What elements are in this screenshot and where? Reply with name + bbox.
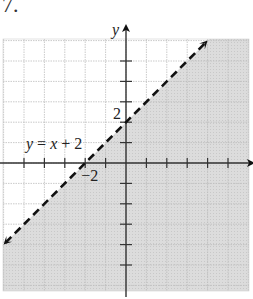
equation-part: = — [33, 135, 46, 152]
x-tick-label-neg2: −2 — [81, 167, 98, 184]
y-tick-label-2: 2 — [113, 105, 121, 122]
y-axis-label: y — [110, 21, 120, 39]
equation-label: y = x + 2 — [24, 135, 82, 153]
inequality-graph: y2−2y = x + 2 — [0, 0, 253, 299]
equation-part: x — [46, 135, 57, 152]
equation-part: + — [57, 135, 70, 152]
equation-part: 2 — [70, 135, 82, 152]
